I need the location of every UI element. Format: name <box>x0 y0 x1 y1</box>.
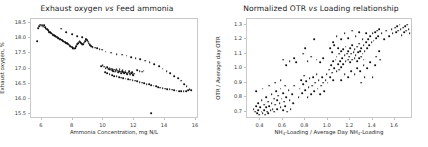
chart-title-right-italic: vs <box>309 4 318 13</box>
data-point <box>274 104 276 106</box>
y-tick-mark <box>244 53 246 54</box>
data-point <box>339 60 341 62</box>
data-point <box>307 96 309 98</box>
data-point <box>366 67 368 69</box>
data-point <box>364 76 366 78</box>
x-tick-mark <box>133 118 134 120</box>
data-point <box>401 34 403 36</box>
data-point <box>255 91 257 93</box>
data-point <box>345 46 347 48</box>
data-point <box>302 53 304 55</box>
data-point <box>135 57 137 59</box>
data-point <box>143 70 145 72</box>
data-point <box>258 114 260 116</box>
data-point <box>264 114 266 116</box>
data-point <box>349 47 351 49</box>
data-point <box>289 60 291 62</box>
y-tick-label: 16.5 <box>8 80 26 86</box>
x-tick-label: 14 <box>161 122 167 128</box>
x-tick-label: 0.4 <box>255 122 263 128</box>
y-tick-mark <box>28 98 30 99</box>
data-point <box>349 62 351 64</box>
y-axis-label: OTR / Average day OTR <box>215 36 221 99</box>
data-point <box>105 51 107 53</box>
data-point <box>271 102 273 104</box>
data-point <box>398 30 400 32</box>
data-point <box>359 50 361 52</box>
data-point <box>293 57 295 59</box>
data-point <box>315 82 317 84</box>
data-point <box>292 102 294 104</box>
y-tick-mark <box>28 22 30 23</box>
y-tick-mark <box>244 38 246 39</box>
data-point <box>365 33 367 35</box>
y-tick-mark <box>28 37 30 38</box>
data-point <box>381 33 383 35</box>
data-point <box>408 28 410 30</box>
data-point <box>76 44 78 46</box>
x-axis-label: Ammonia Concentration, mg N/L <box>70 129 158 135</box>
data-point <box>267 112 269 114</box>
x-tick-label: 1.2 <box>345 122 353 128</box>
data-point <box>263 104 265 106</box>
data-point <box>121 54 123 56</box>
data-point <box>347 76 349 78</box>
data-point <box>177 77 179 79</box>
y-axis-label: Exhaust oxygen, % <box>0 42 5 94</box>
data-point <box>298 96 300 98</box>
y-tick-mark <box>244 111 246 112</box>
data-point <box>316 73 318 75</box>
data-point <box>283 101 285 103</box>
data-point <box>325 79 327 81</box>
data-point <box>361 47 363 49</box>
data-point <box>324 91 326 93</box>
y-tick-mark <box>244 82 246 83</box>
x-tick-mark <box>72 118 73 120</box>
data-point <box>350 70 352 72</box>
x-tick-label: 1.4 <box>368 122 376 128</box>
x-tick-label: 0.8 <box>300 122 308 128</box>
data-point <box>352 30 354 32</box>
data-point <box>395 31 397 33</box>
data-point <box>368 44 370 46</box>
data-point <box>403 31 405 33</box>
plot-area-left <box>30 18 198 118</box>
data-point <box>173 75 175 77</box>
data-point <box>346 53 348 55</box>
x-tick-mark <box>304 118 305 120</box>
data-point <box>352 59 354 61</box>
data-point <box>257 102 259 104</box>
y-tick-label: 0.9 <box>224 79 242 85</box>
data-point <box>269 85 271 87</box>
data-point <box>130 56 132 58</box>
data-point <box>158 65 160 67</box>
data-point <box>348 56 350 58</box>
data-point <box>282 59 284 61</box>
data-point <box>316 59 318 61</box>
data-point <box>140 59 142 61</box>
chart-title-left-after: Feed ammonia <box>114 4 174 13</box>
data-point <box>269 105 271 107</box>
data-point <box>303 75 305 77</box>
x-tick-mark <box>164 118 165 120</box>
data-point <box>263 109 265 111</box>
y-tick-label: 1.3 <box>224 21 242 27</box>
chart-title-right-before: Normalized OTR <box>243 4 308 13</box>
data-point <box>253 108 255 110</box>
data-point <box>347 50 349 52</box>
data-point <box>150 112 152 114</box>
data-point <box>391 28 393 30</box>
y-tick-label: 18.0 <box>8 34 26 40</box>
data-point <box>370 62 372 64</box>
data-point <box>354 57 356 59</box>
data-point <box>375 37 377 39</box>
y-tick-mark <box>244 67 246 68</box>
data-point <box>327 82 329 84</box>
data-point <box>362 38 364 40</box>
data-point <box>296 62 298 64</box>
data-point <box>180 80 182 82</box>
data-point <box>149 62 151 64</box>
data-point <box>60 28 62 30</box>
data-point <box>76 35 78 37</box>
data-point <box>301 92 303 94</box>
